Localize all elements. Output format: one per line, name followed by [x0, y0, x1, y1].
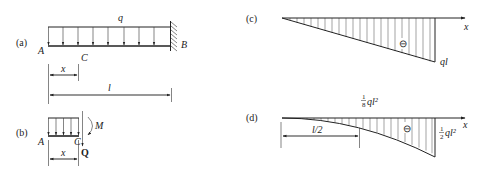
- panel-a: (a) q A C B: [16, 12, 187, 104]
- svg-text:1: 1: [362, 93, 366, 101]
- point-C-label-b: C: [74, 136, 81, 147]
- beam-diagram-figure: (a) q A C B: [0, 0, 478, 174]
- svg-text:8: 8: [362, 101, 366, 109]
- svg-text:1: 1: [440, 125, 444, 133]
- load-arrows: [49, 27, 155, 45]
- negative-sign-icon-d: ⊖: [403, 123, 411, 134]
- svg-text:x: x: [60, 63, 66, 74]
- point-B-label: B: [181, 39, 187, 50]
- shear-label-Q: Q: [81, 147, 89, 158]
- point-A-label-b: A: [37, 136, 45, 147]
- panel-b: (b) M A C Q x: [16, 111, 104, 166]
- end-value-ql: ql: [440, 56, 448, 67]
- moment-arc-icon: [88, 117, 93, 135]
- svg-text:ql²: ql²: [445, 127, 457, 138]
- dimension-l: l: [50, 82, 172, 102]
- svg-text:2: 2: [440, 133, 444, 141]
- point-C-label: C: [81, 52, 88, 63]
- negative-sign-icon: ⊖: [399, 38, 407, 49]
- shear-line: [282, 18, 435, 62]
- panel-b-tag: (b): [16, 127, 28, 139]
- fixed-support-icon: [171, 21, 178, 51]
- dimension-half-l: l/2: [281, 122, 360, 148]
- panel-c-tag: (c): [246, 13, 257, 25]
- x-axis-label-d: x: [462, 119, 468, 130]
- panel-c: (c) x ⊖ q: [246, 13, 469, 67]
- dimension-x: x: [49, 63, 79, 104]
- svg-text:ql²: ql²: [367, 96, 379, 107]
- svg-text:x: x: [60, 147, 66, 158]
- panel-a-tag: (a): [16, 37, 27, 49]
- mid-value-label: 1 8 ql²: [361, 93, 379, 109]
- point-A-label: A: [37, 45, 45, 56]
- panel-d: (d) x ⊖: [246, 93, 468, 157]
- panel-d-tag: (d): [246, 112, 258, 124]
- x-axis-label-c: x: [463, 21, 469, 32]
- svg-text:l: l: [108, 82, 111, 93]
- svg-text:l/2: l/2: [312, 124, 323, 135]
- end-value-label: 1 2 ql²: [439, 125, 457, 141]
- partial-load-arrows: [49, 118, 79, 135]
- load-label-q: q: [118, 12, 123, 23]
- moment-label-M: M: [94, 120, 104, 131]
